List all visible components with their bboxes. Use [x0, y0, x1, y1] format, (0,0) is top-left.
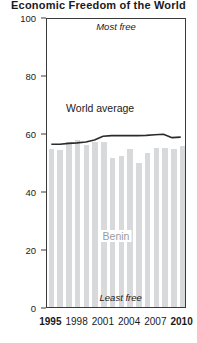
annotation-benin: Benin: [101, 230, 132, 242]
y-tick-label-20: 20: [25, 245, 36, 256]
x-tick-label-2010: 2010: [171, 316, 193, 327]
x-axis: 199519982001200420072010: [0, 312, 197, 332]
line-series-world-average: [47, 19, 185, 307]
x-tick-label-1998: 1998: [66, 316, 88, 327]
x-tick-label-2001: 2001: [92, 316, 114, 327]
y-tick-label-100: 100: [20, 13, 36, 24]
y-axis: 100806040200: [0, 0, 46, 343]
x-tick-label-1995: 1995: [39, 316, 61, 327]
y-tick-label-80: 80: [25, 71, 36, 82]
annotation-most-free: Most free: [96, 21, 136, 32]
y-tick-label-40: 40: [25, 187, 36, 198]
x-tick-label-2007: 2007: [144, 316, 166, 327]
annotation-world-average: World average: [66, 102, 134, 114]
chart-root: Economic Freedom of the World 1008060402…: [0, 0, 197, 343]
x-tick-label-2004: 2004: [118, 316, 140, 327]
plot-area: [46, 18, 186, 308]
annotation-least-free: Least free: [100, 292, 142, 303]
y-tick-label-60: 60: [25, 129, 36, 140]
